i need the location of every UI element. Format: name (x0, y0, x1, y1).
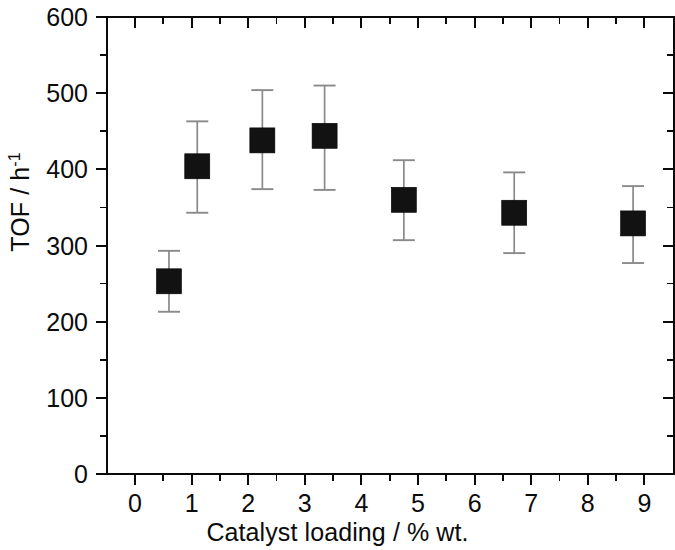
axes-group (107, 17, 675, 474)
x-tick-label: 7 (524, 489, 538, 517)
y-axis-title: TOF / h-1 (6, 152, 35, 251)
x-tick-label: 5 (411, 489, 425, 517)
data-point-marker (621, 211, 646, 236)
y-axis-title-base: TOF / h (6, 167, 34, 252)
tick-labels-group: 01002003004005006000123456789 (46, 3, 651, 517)
ticks-group (96, 17, 674, 485)
data-point-marker (502, 200, 527, 225)
chart-figure: 01002003004005006000123456789 TOF / h-1 … (0, 0, 675, 550)
x-axis-title: Catalyst loading / % wt. (0, 518, 675, 547)
data-point-marker (312, 123, 337, 148)
data-point-marker (185, 154, 210, 179)
plot-canvas: 01002003004005006000123456789 (0, 0, 675, 550)
x-tick-label: 3 (298, 489, 312, 517)
y-axis-title-exponent: -1 (6, 152, 23, 166)
data-markers-group (156, 123, 645, 293)
x-tick-label: 9 (637, 489, 651, 517)
y-tick-label: 500 (46, 79, 88, 107)
y-tick-label: 100 (46, 384, 88, 412)
y-axis-title-wrapper: TOF / h-1 (6, 72, 46, 332)
x-tick-label: 0 (128, 489, 142, 517)
data-point-marker (391, 187, 416, 212)
data-point-marker (250, 128, 275, 153)
x-tick-label: 8 (581, 489, 595, 517)
y-tick-label: 300 (46, 232, 88, 260)
x-tick-label: 6 (468, 489, 482, 517)
y-tick-label: 600 (46, 3, 88, 31)
x-tick-label: 1 (185, 489, 199, 517)
x-tick-label: 2 (241, 489, 255, 517)
y-tick-label: 400 (46, 155, 88, 183)
x-tick-label: 4 (354, 489, 368, 517)
y-tick-label: 200 (46, 308, 88, 336)
data-point-marker (156, 269, 181, 294)
y-tick-label: 0 (74, 460, 88, 488)
